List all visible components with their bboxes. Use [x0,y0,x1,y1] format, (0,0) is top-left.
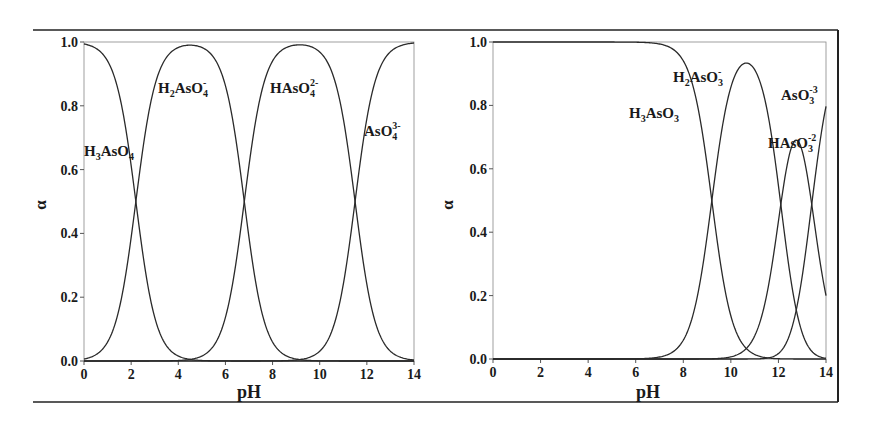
species-label: H3AsO3 [629,105,679,124]
species-labels: H3AsO4H2AsO4-HAsO42-AsO43- [84,77,401,162]
x-axis-label: pH [237,382,261,402]
y-tick-label: 1.0 [470,35,488,50]
y-axis-label: α [31,200,50,210]
species-label: H2AsO4- [158,77,208,99]
curve-h3aso4 [84,44,414,361]
x-tick-label: 10 [313,367,327,382]
x-axis-label: pH [636,382,660,402]
chart-panel-arsenate: 0.00.20.40.60.81.0 02468101214 α pH H3As… [31,35,421,402]
x-axis-ticks: 02468101214 [81,361,422,382]
y-tick-label: 0.6 [470,162,488,177]
species-label: HAsO3-2 [768,132,816,154]
species-label: H2AsO3- [673,66,723,88]
curve-haso3-2- [493,140,826,359]
x-tick-label: 0 [81,367,88,382]
species-label: AsO43- [364,120,401,142]
y-tick-label: 0.8 [61,99,79,114]
x-tick-label: 12 [360,367,374,382]
species-labels: H3AsO3H2AsO3-HAsO3-2AsO3-3 [629,66,818,154]
y-tick-label: 0.4 [470,225,488,240]
y-axis-label: α [438,200,457,210]
curve-aso4-3- [84,43,414,361]
y-axis-ticks: 0.00.20.40.60.81.0 [61,35,85,369]
y-tick-label: 0.2 [470,289,488,304]
x-tick-label: 14 [407,367,421,382]
x-tick-label: 6 [632,365,639,380]
x-tick-label: 10 [724,365,738,380]
y-tick-label: 0.0 [470,352,488,367]
x-axis-ticks: 02468101214 [490,359,834,380]
figure-canvas: 0.00.20.40.60.81.0 02468101214 α pH H3As… [0,0,871,429]
curve-h3aso3 [493,42,826,359]
y-tick-label: 0.2 [61,290,79,305]
curve-haso4-2- [84,45,414,361]
x-tick-label: 4 [175,367,182,382]
plot-area [493,42,826,359]
species-label: AsO3-3 [781,84,818,106]
x-tick-label: 4 [585,365,592,380]
species-label: H3AsO4 [84,143,134,162]
y-axis-ticks: 0.00.20.40.60.81.0 [470,35,494,367]
y-tick-label: 0.4 [61,226,79,241]
plot-area [84,42,414,361]
species-label: HAsO42- [270,77,318,99]
x-tick-label: 8 [269,367,276,382]
species-curves [493,42,826,359]
x-tick-label: 12 [771,365,785,380]
y-tick-label: 0.6 [61,163,79,178]
figure: 0.00.20.40.60.81.0 02468101214 α pH H3As… [0,0,871,429]
y-tick-label: 0.8 [470,98,488,113]
y-tick-label: 1.0 [61,35,79,50]
x-tick-label: 8 [680,365,687,380]
chart-panel-arsenite: 0.00.20.40.60.81.0 02468101214 α pH H3As… [438,35,833,402]
x-tick-label: 6 [222,367,229,382]
x-tick-label: 2 [537,365,544,380]
curve-h2aso4- [84,45,414,361]
y-tick-label: 0.0 [61,354,79,369]
x-tick-label: 0 [490,365,497,380]
x-tick-label: 14 [819,365,833,380]
species-curves [84,43,414,361]
x-tick-label: 2 [128,367,135,382]
